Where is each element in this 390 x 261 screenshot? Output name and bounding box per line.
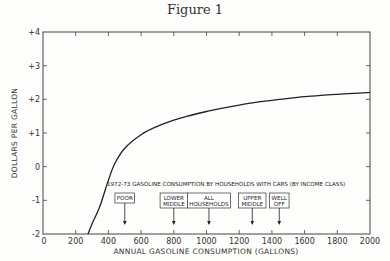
annotation-label: MIDDLE [163, 201, 185, 207]
arrow-down-icon [250, 221, 254, 225]
x-tick-label: 0 [41, 237, 46, 246]
plot-axes: 0200400600800100012001400160018002000-2-… [28, 28, 380, 246]
y-tick-label: +3 [28, 62, 40, 71]
annotation-label: UPPER [243, 195, 261, 201]
x-tick-label: 600 [133, 237, 148, 246]
annotation-all-households: ALLHOUSEHOLDS [187, 193, 230, 225]
arrow-down-icon [277, 221, 281, 225]
y-tick-label: -1 [32, 196, 40, 205]
annotation-lower-middle: LOWERMIDDLE [160, 193, 187, 225]
x-tick-label: 1600 [294, 237, 314, 246]
price-curve [88, 92, 370, 234]
annotation-label: HOUSEHOLDS [189, 201, 229, 207]
annotation-label: OFF [274, 201, 285, 207]
arrow-down-icon [207, 221, 211, 225]
x-tick-label: 1400 [262, 237, 282, 246]
income-class-annotations: POORLOWERMIDDLEALLHOUSEHOLDSUPPERMIDDLEW… [115, 193, 289, 225]
x-tick-label: 1200 [229, 237, 249, 246]
annotation-upper-middle: UPPERMIDDLE [239, 193, 266, 225]
x-tick-label: 800 [166, 237, 181, 246]
data-curve [88, 92, 370, 234]
annotation-label: MIDDLE [241, 201, 263, 207]
annotation-label: ALL [204, 195, 215, 201]
arrow-down-icon [123, 221, 127, 225]
annotation-label: WELL [272, 195, 288, 201]
y-axis-label: DOLLARS PER GALLON [10, 88, 19, 179]
annotation-title: 1972-73 GASOLINE CONSUMPTION BY HOUSEHOL… [107, 181, 345, 187]
y-tick-label: +1 [28, 129, 40, 138]
annotation-label: LOWER [164, 195, 184, 201]
arrow-down-icon [172, 221, 176, 225]
chart: 0200400600800100012001400160018002000-2-… [0, 0, 390, 261]
y-tick-label: +4 [28, 28, 40, 37]
x-tick-label: 400 [101, 237, 116, 246]
x-axis-label: ANNUAL GASOLINE CONSUMPTION (GALLONS) [113, 247, 298, 256]
x-tick-label: 1000 [196, 237, 216, 246]
x-tick-label: 1800 [327, 237, 347, 246]
y-tick-label: 0 [35, 163, 40, 172]
y-tick-label: -2 [32, 230, 40, 239]
annotation-label: POOR [117, 195, 133, 201]
y-tick-label: +2 [28, 95, 40, 104]
annotation-well-off: WELLOFF [269, 193, 289, 225]
x-tick-label: 200 [68, 237, 83, 246]
x-tick-label: 2000 [360, 237, 380, 246]
annotation-poor: POOR [115, 193, 135, 225]
